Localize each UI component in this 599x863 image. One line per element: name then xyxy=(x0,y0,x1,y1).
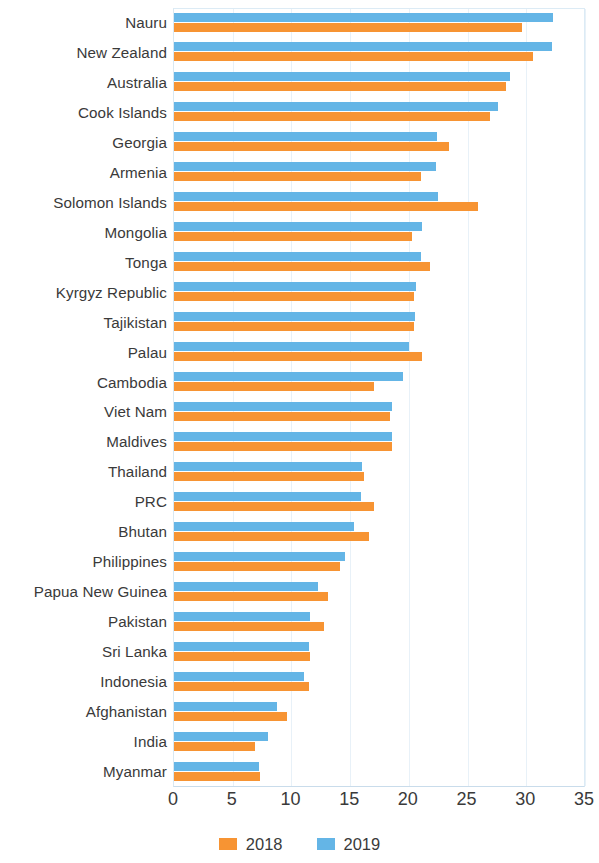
bar-group xyxy=(174,667,585,697)
bar-2019[interactable] xyxy=(174,492,361,501)
category-label: Solomon Islands xyxy=(53,195,167,210)
bar-group xyxy=(174,218,585,248)
bar-2018[interactable] xyxy=(174,292,414,301)
category-label: Tonga xyxy=(125,255,167,270)
x-axis-tick-label: 30 xyxy=(515,790,535,808)
plot-wrapper: NauruNew ZealandAustraliaCook IslandsGeo… xyxy=(0,0,599,800)
bar-2019[interactable] xyxy=(174,372,403,381)
bar-2019[interactable] xyxy=(174,13,553,22)
bar-2018[interactable] xyxy=(174,82,506,91)
bar-group xyxy=(174,338,585,368)
bar-group xyxy=(174,637,585,667)
bar-2018[interactable] xyxy=(174,502,374,511)
category-label: Mongolia xyxy=(105,225,167,240)
chart-row: Kyrgyz Republic xyxy=(0,278,599,308)
legend-item[interactable]: 2018 xyxy=(219,836,283,853)
bar-2019[interactable] xyxy=(174,102,498,111)
bar-2018[interactable] xyxy=(174,742,255,751)
bar-2018[interactable] xyxy=(174,712,287,721)
bar-group xyxy=(174,278,585,308)
category-label: Palau xyxy=(128,345,167,360)
category-label: Tajikistan xyxy=(104,315,167,330)
bar-2019[interactable] xyxy=(174,402,392,411)
chart-row: PRC xyxy=(0,487,599,517)
bar-2018[interactable] xyxy=(174,352,422,361)
category-label: Armenia xyxy=(110,165,167,180)
bar-2018[interactable] xyxy=(174,262,430,271)
category-label: Australia xyxy=(107,75,167,90)
chart-rows: NauruNew ZealandAustraliaCook IslandsGeo… xyxy=(0,8,599,787)
x-axis-tick-label: 0 xyxy=(168,790,178,808)
category-label: Bhutan xyxy=(118,525,167,540)
category-label: Sri Lanka xyxy=(102,645,167,660)
bar-2019[interactable] xyxy=(174,522,354,531)
chart-row: Pakistan xyxy=(0,607,599,637)
bar-2018[interactable] xyxy=(174,682,309,691)
category-label: Philippines xyxy=(92,555,167,570)
bar-2018[interactable] xyxy=(174,592,328,601)
category-label: Nauru xyxy=(125,15,167,30)
x-axis-tick-label: 20 xyxy=(398,790,418,808)
bar-group xyxy=(174,757,585,787)
bar-2018[interactable] xyxy=(174,232,412,241)
bar-2018[interactable] xyxy=(174,562,340,571)
bar-group xyxy=(174,577,585,607)
bar-2019[interactable] xyxy=(174,432,392,441)
bar-group xyxy=(174,368,585,398)
bar-2019[interactable] xyxy=(174,252,421,261)
chart-row: Myanmar xyxy=(0,757,599,787)
bar-2018[interactable] xyxy=(174,172,421,181)
bar-2019[interactable] xyxy=(174,462,362,471)
bar-group xyxy=(174,547,585,577)
bar-2019[interactable] xyxy=(174,342,409,351)
bar-2018[interactable] xyxy=(174,622,324,631)
bar-2018[interactable] xyxy=(174,322,414,331)
bar-2019[interactable] xyxy=(174,132,437,141)
bar-2019[interactable] xyxy=(174,642,309,651)
chart-row: Bhutan xyxy=(0,517,599,547)
bar-2018[interactable] xyxy=(174,412,390,421)
bar-2018[interactable] xyxy=(174,23,522,32)
category-label: Papua New Guinea xyxy=(34,585,167,600)
bar-2019[interactable] xyxy=(174,282,416,291)
bar-2018[interactable] xyxy=(174,442,392,451)
bar-2018[interactable] xyxy=(174,52,533,61)
bar-2019[interactable] xyxy=(174,612,310,621)
bar-2019[interactable] xyxy=(174,222,422,231)
legend-swatch-icon xyxy=(317,838,335,850)
category-label: Myanmar xyxy=(103,764,167,779)
bar-2019[interactable] xyxy=(174,72,510,81)
bar-2019[interactable] xyxy=(174,702,277,711)
x-axis-tick-label: 10 xyxy=(280,790,300,808)
bar-2019[interactable] xyxy=(174,762,259,771)
bar-2018[interactable] xyxy=(174,202,478,211)
bar-2019[interactable] xyxy=(174,162,436,171)
bar-2018[interactable] xyxy=(174,472,364,481)
bar-2019[interactable] xyxy=(174,42,552,51)
bar-2019[interactable] xyxy=(174,582,318,591)
category-label: Kyrgyz Republic xyxy=(56,285,167,300)
bar-group xyxy=(174,38,585,68)
bar-group xyxy=(174,68,585,98)
bar-2018[interactable] xyxy=(174,382,374,391)
bar-2018[interactable] xyxy=(174,652,310,661)
chart-row: India xyxy=(0,727,599,757)
x-axis-tick-label: 15 xyxy=(339,790,359,808)
bar-2019[interactable] xyxy=(174,552,345,561)
bar-2018[interactable] xyxy=(174,142,449,151)
bar-2018[interactable] xyxy=(174,112,490,121)
category-label: Cambodia xyxy=(97,375,167,390)
chart-row: Tajikistan xyxy=(0,308,599,338)
bar-2019[interactable] xyxy=(174,312,415,321)
bar-2019[interactable] xyxy=(174,192,438,201)
bar-group xyxy=(174,128,585,158)
legend-label: 2018 xyxy=(246,836,283,853)
bar-2018[interactable] xyxy=(174,772,260,781)
bar-group xyxy=(174,427,585,457)
x-axis-tick-label: 35 xyxy=(574,790,594,808)
legend-item[interactable]: 2019 xyxy=(317,836,381,853)
bar-2018[interactable] xyxy=(174,532,369,541)
bar-2019[interactable] xyxy=(174,672,304,681)
bar-group xyxy=(174,248,585,278)
bar-2019[interactable] xyxy=(174,732,268,741)
